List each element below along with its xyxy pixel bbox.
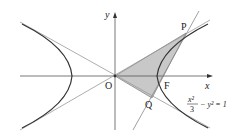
equation-rest: − y² = 1 (200, 100, 227, 109)
point-q-label: Q (145, 99, 153, 110)
point-p-label: P (181, 21, 187, 32)
equation-numerator: x² (187, 95, 195, 104)
origin-point (114, 75, 117, 78)
y-axis-arrow-icon (113, 12, 117, 18)
y-axis-label: y (104, 9, 110, 20)
equation-denominator: 3 (190, 105, 194, 114)
shaded-triangle-opq (115, 33, 186, 98)
x-axis-label: x (204, 80, 210, 91)
x-axis-arrow-icon (207, 74, 213, 78)
hyperbola-diagram: y x O F P Q x² 3 − y² = 1 (0, 0, 249, 140)
focus-label: F (164, 80, 170, 91)
origin-label: O (105, 80, 112, 91)
hyperbola-equation: x² 3 − y² = 1 (187, 95, 227, 114)
